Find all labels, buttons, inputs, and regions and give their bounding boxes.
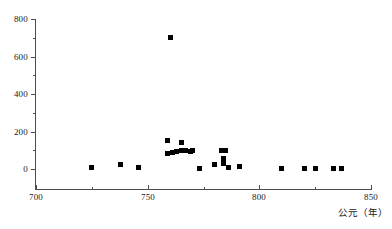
data-point-marker — [302, 166, 307, 171]
y-tick-label: 0 — [23, 165, 28, 174]
y-tick-label: 200 — [14, 128, 28, 137]
x-tick-label: 700 — [16, 193, 56, 202]
data-point-marker — [313, 166, 318, 171]
x-tick-label: 800 — [239, 193, 279, 202]
x-tick-minor — [315, 187, 316, 190]
data-point-marker — [136, 165, 141, 170]
data-point-marker — [118, 162, 123, 167]
scatter-chart-figure: 0200400600800 700750800850 公元（年） — [0, 0, 392, 229]
y-tick-label: 800 — [14, 15, 28, 24]
x-tick-minor — [92, 187, 93, 190]
x-axis-line — [35, 189, 371, 190]
y-tick-label: 400 — [14, 90, 28, 99]
data-point-marker — [89, 165, 94, 170]
y-tick-label: 600 — [14, 53, 28, 62]
data-point-marker — [237, 164, 242, 169]
data-point-marker — [279, 166, 284, 171]
x-tick-major — [371, 185, 372, 190]
x-tick-major — [148, 185, 149, 190]
x-axis-title: 公元（年） — [338, 207, 388, 218]
data-point-marker — [168, 35, 173, 40]
data-point-marker — [212, 162, 217, 167]
data-point-marker — [165, 138, 170, 143]
data-point-marker — [197, 166, 202, 171]
data-point-marker — [331, 166, 336, 171]
data-point-marker — [339, 166, 344, 171]
x-tick-label: 850 — [351, 193, 391, 202]
data-point-marker — [223, 148, 228, 153]
plot-area — [36, 19, 371, 169]
x-tick-minor — [204, 187, 205, 190]
data-point-marker — [226, 165, 231, 170]
y-tick-major — [31, 169, 36, 170]
data-point-marker — [179, 140, 184, 145]
x-tick-label: 750 — [128, 193, 168, 202]
data-point-marker — [190, 148, 195, 153]
x-tick-major — [36, 185, 37, 190]
x-tick-major — [259, 185, 260, 190]
